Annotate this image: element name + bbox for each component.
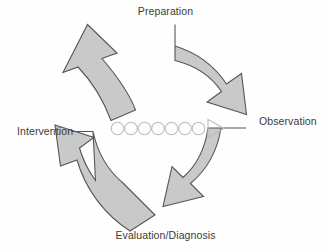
progression-circle	[138, 122, 151, 135]
progression-circle	[165, 122, 178, 135]
arrow-to-evaluation	[163, 128, 246, 207]
progression-circle	[125, 122, 138, 135]
progression-circle	[152, 122, 165, 135]
cycle-diagram: Preparation Observation Evaluation/Diagn…	[0, 0, 331, 252]
progression-circle	[192, 122, 205, 135]
node-label-preparation: Preparation	[0, 6, 331, 18]
arrow-to-preparation	[63, 25, 136, 121]
node-label-observation: Observation	[259, 116, 317, 128]
node-label-evaluation: Evaluation/Diagnosis	[0, 230, 331, 242]
arrow-to-observation	[175, 25, 247, 115]
node-label-intervention: Intervention	[17, 126, 73, 138]
progression-circle	[179, 122, 192, 135]
progression-circle	[111, 122, 124, 135]
arrow-to-intervention	[55, 125, 155, 231]
